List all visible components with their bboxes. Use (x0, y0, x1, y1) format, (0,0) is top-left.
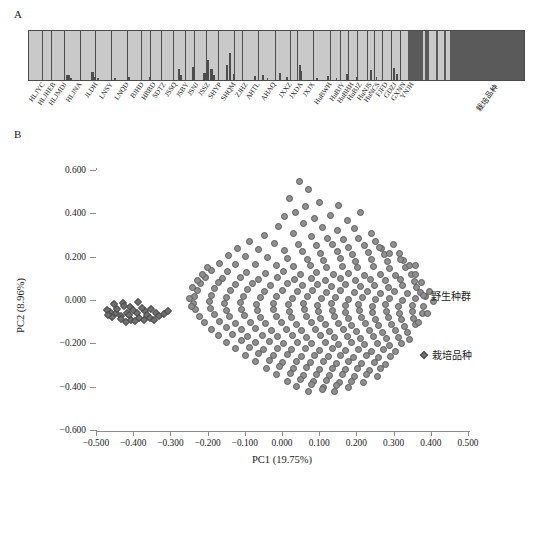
scatter-point (255, 276, 262, 283)
x-tick-mark (431, 431, 432, 436)
structure-admixture-spike (70, 78, 72, 80)
structure-admixture-spike (327, 76, 329, 80)
structure-admixture-spike (229, 53, 231, 80)
scatter-point (308, 340, 315, 347)
structure-admixture-spike (254, 76, 256, 80)
structure-admixture-spike (128, 77, 130, 80)
scatter-point (223, 324, 230, 331)
scatter-point (375, 322, 382, 329)
scatter-point (363, 352, 370, 359)
scatter-point (238, 337, 245, 344)
scatter-point (223, 339, 230, 346)
x-tick-mark (170, 431, 171, 436)
scatter-point (298, 327, 305, 334)
x-tick-label: −0.200 (194, 438, 220, 448)
structure-admixture-spike (356, 77, 357, 80)
scatter-point (354, 264, 361, 271)
scatter-point (331, 388, 338, 395)
scatter-point (398, 340, 405, 347)
scatter-point (374, 340, 381, 347)
x-tick-label: −0.300 (157, 438, 183, 448)
scatter-point (355, 235, 362, 242)
structure-population-divider (173, 31, 174, 80)
scatter-point (337, 287, 344, 294)
scatter-point (386, 342, 393, 349)
structure-admixture-spike (393, 68, 395, 80)
y-tick-mark (90, 387, 96, 388)
scatter-point (255, 246, 262, 253)
scatter-point (302, 345, 309, 352)
scatter-point (280, 340, 287, 347)
x-axis-title: PC1 (19.75%) (96, 454, 468, 465)
structure-population-divider (95, 31, 96, 80)
scatter-point (316, 199, 323, 206)
x-tick-mark (133, 431, 134, 436)
scatter-point (360, 379, 367, 386)
scatter-point (284, 255, 291, 262)
scatter-point (246, 238, 253, 245)
scatter-point (232, 320, 239, 327)
panel-b-label: B (14, 128, 21, 140)
structure-admixture-spike (286, 77, 287, 80)
scatter-point (372, 296, 379, 303)
cultivar-group-label: 栽培品种 (473, 81, 500, 113)
structure-admixture-spike (233, 74, 234, 80)
scatter-point (295, 241, 302, 248)
y-tick-mark (90, 257, 96, 258)
scatter-point (322, 277, 329, 284)
scatter-point (252, 261, 259, 268)
scatter-point (208, 326, 215, 333)
scatter-point (386, 265, 393, 272)
scatter-point (308, 275, 315, 282)
population-label-axis: HLJYCHLJHEBHLJMDJHLJNAJLDHLNSYLNQDBJHDHB… (28, 81, 525, 127)
scatter-point (226, 313, 233, 320)
legend-entry-cultivar: 栽培品种 (420, 347, 472, 362)
structure-population-divider (348, 31, 349, 80)
scatter-point (386, 250, 393, 257)
scatter-point (290, 230, 297, 237)
scatter-point (391, 288, 398, 295)
scatter-point (349, 251, 356, 258)
scatter-point (284, 378, 291, 385)
scatter-point (244, 286, 251, 293)
scatter-point (334, 227, 341, 234)
scatter-point (290, 263, 297, 270)
structure-admixture-spike (279, 73, 281, 80)
scatter-point (273, 293, 280, 300)
scatter-point (374, 373, 381, 380)
scatter-point (237, 274, 244, 281)
scatter-point (201, 319, 208, 326)
structure-population-divider (234, 31, 235, 80)
scatter-point (387, 353, 394, 360)
scatter-point (328, 283, 335, 290)
scatter-point (313, 242, 320, 249)
scatter-point (384, 258, 391, 265)
scatter-point (398, 316, 405, 323)
scatter-point (211, 311, 218, 318)
scatter-point (376, 244, 383, 251)
y-tick-label: 0.600 (65, 165, 86, 175)
y-tick-label: −0.600 (60, 425, 86, 435)
scatter-point (323, 377, 330, 384)
y-tick-mark (90, 300, 96, 301)
population-label: LNQD (113, 81, 131, 102)
scatter-point (299, 282, 306, 289)
scatter-point (348, 339, 355, 346)
scatter-point (339, 263, 346, 270)
scatter-point (242, 352, 249, 359)
scatter-point (354, 365, 361, 372)
scatter-point (371, 359, 378, 366)
structure-population-divider (42, 31, 43, 80)
scatter-point (297, 376, 304, 383)
scatter-point (215, 332, 222, 339)
structure-population-divider (51, 31, 52, 80)
scatter-point (390, 241, 397, 248)
structure-admixture-spike (346, 74, 348, 80)
x-tick-mark (96, 431, 97, 436)
structure-admixture-spike (242, 77, 243, 80)
x-tick-label: 0.000 (271, 438, 292, 448)
x-tick-label: −0.100 (232, 438, 258, 448)
scatter-point (337, 255, 344, 262)
structure-admixture-spike (97, 78, 98, 80)
scatter-point (274, 345, 281, 352)
